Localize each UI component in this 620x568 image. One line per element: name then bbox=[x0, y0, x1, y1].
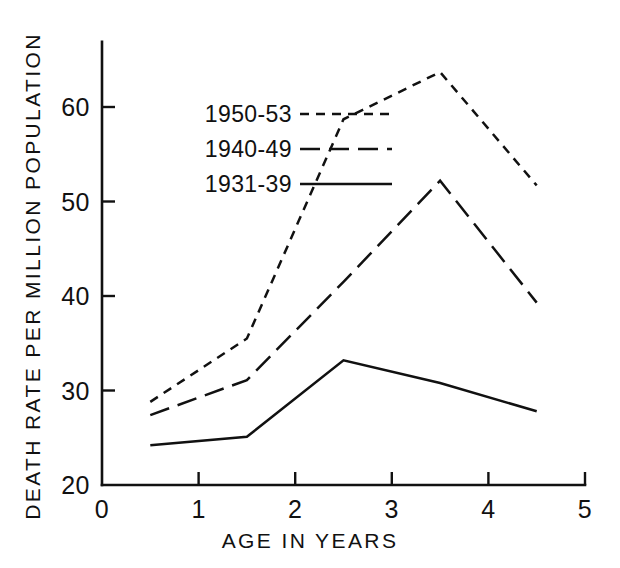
series-line-1931-39 bbox=[150, 360, 536, 445]
x-axis-ticks: 012345 bbox=[95, 472, 592, 523]
legend-label-1931-39: 1931-39 bbox=[205, 171, 292, 197]
y-axis-ticks: 2030405060 bbox=[61, 93, 115, 499]
y-tick-label: 60 bbox=[61, 93, 90, 121]
x-tick-label: 3 bbox=[385, 495, 399, 523]
y-tick-label: 40 bbox=[61, 282, 90, 310]
x-tick-label: 4 bbox=[481, 495, 495, 523]
x-tick-label: 5 bbox=[578, 495, 592, 523]
x-tick-label: 1 bbox=[191, 495, 205, 523]
x-axis-title: AGE IN YEARS bbox=[222, 529, 399, 552]
series-line-1940-49 bbox=[150, 181, 536, 415]
chart-figure: 012345 2030405060 1950-531940-491931-39 … bbox=[0, 0, 620, 568]
y-tick-label: 50 bbox=[61, 188, 90, 216]
y-tick-label: 20 bbox=[61, 471, 90, 499]
chart-axes bbox=[102, 42, 585, 485]
line-chart: 012345 2030405060 1950-531940-491931-39 … bbox=[0, 0, 620, 568]
y-tick-label: 30 bbox=[61, 377, 90, 405]
y-axis-title: DEATH RATE PER MILLION POPULATION bbox=[21, 32, 44, 520]
x-tick-label: 0 bbox=[95, 495, 109, 523]
x-tick-label: 2 bbox=[288, 495, 302, 523]
legend-label-1950-53: 1950-53 bbox=[205, 101, 292, 127]
legend-label-1940-49: 1940-49 bbox=[205, 136, 292, 162]
chart-legend: 1950-531940-491931-39 bbox=[205, 101, 392, 197]
chart-series-lines bbox=[150, 72, 536, 445]
